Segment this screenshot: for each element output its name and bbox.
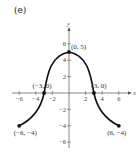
- x-axis-label: x: [132, 89, 136, 96]
- x-tick-label: −6: [16, 95, 24, 102]
- point-label: (−6, −4): [14, 129, 38, 137]
- point-label: (6, −4): [107, 129, 127, 137]
- x-tick-label: 6: [117, 95, 121, 102]
- y-tick-label: −6: [59, 138, 67, 145]
- x-tick-label: 2: [84, 95, 87, 102]
- graph: x y −6−4−2246 642−2−4−6 (0, 5)(−3, 0)(3,…: [0, 0, 139, 163]
- x-tick-label: −2: [49, 95, 56, 102]
- y-tick-label: −2: [59, 106, 66, 113]
- point-marker: [42, 91, 46, 95]
- x-axis: [12, 91, 132, 94]
- labeled-points: (0, 5)(−3, 0)(3, 0)(−6, −4)(6, −4): [14, 43, 127, 137]
- y-tick-label: −4: [59, 122, 67, 129]
- x-tick-label: 4: [101, 95, 105, 102]
- point-label: (−3, 0): [33, 82, 53, 90]
- point-marker: [92, 91, 96, 95]
- point-marker: [17, 124, 21, 128]
- point-label: (3, 0): [91, 82, 107, 90]
- y-axis-label: y: [66, 20, 70, 27]
- y-tick-label: 6: [63, 40, 67, 47]
- point-label: (0, 5): [71, 43, 87, 51]
- x-tick-label: −4: [32, 95, 40, 102]
- point-marker: [117, 124, 121, 128]
- y-tick-label: 2: [63, 73, 66, 80]
- y-tick-label: 4: [63, 56, 67, 63]
